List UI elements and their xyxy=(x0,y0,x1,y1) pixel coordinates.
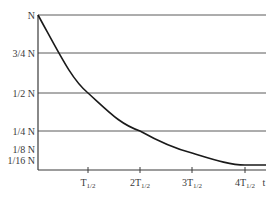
y-label-quarter: 1/4 N xyxy=(13,126,36,137)
decay-curve xyxy=(38,15,266,165)
y-label-n: N xyxy=(28,10,35,21)
y-label-eighth: 1/8 N xyxy=(13,144,36,155)
decay-chart: N 3/4 N 1/2 N 1/4 N 1/8 N 1/16 N T1/2 2T… xyxy=(0,0,278,197)
x-label-1: T1/2 xyxy=(80,177,96,190)
y-label-three-quarter: 3/4 N xyxy=(13,48,36,59)
x-axis-title: t xyxy=(263,177,266,188)
x-label-3: 3T1/2 xyxy=(182,177,203,190)
y-label-half: 1/2 N xyxy=(13,88,36,99)
y-label-sixteenth: 1/16 N xyxy=(8,155,36,166)
x-label-4: 4T1/2 xyxy=(235,177,256,190)
x-label-2: 2T1/2 xyxy=(130,177,151,190)
